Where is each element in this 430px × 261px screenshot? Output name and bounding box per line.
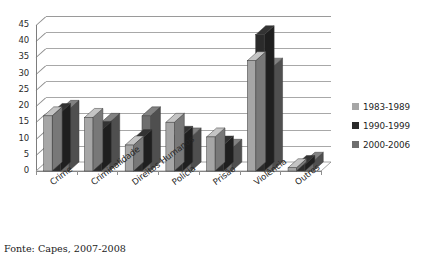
x-axis-tick	[158, 171, 159, 175]
legend-item: 2000-2006	[352, 135, 430, 154]
x-axis-tick	[240, 171, 241, 175]
figure-source-caption: Fonte: Capes, 2007-2008	[4, 243, 126, 254]
legend-swatch-icon	[352, 122, 359, 129]
legend-swatch-icon	[352, 141, 359, 148]
figure-container: 051015202530354045 CrimeCriminalidadeDir…	[0, 0, 430, 261]
x-axis-tick	[36, 171, 37, 175]
legend-item: 1990-1999	[352, 116, 430, 135]
legend-swatch-icon	[352, 103, 359, 110]
bar-chart: 051015202530354045 CrimeCriminalidadeDir…	[0, 0, 345, 215]
legend-item: 1983-1989	[352, 97, 430, 116]
legend-label: 1983-1989	[363, 102, 410, 112]
x-axis-tick	[77, 171, 78, 175]
x-axis-tick	[199, 171, 200, 175]
legend-label: 2000-2006	[363, 140, 410, 150]
legend-label: 1990-1999	[363, 121, 410, 131]
chart-legend: 1983-19891990-19992000-2006	[352, 97, 430, 154]
x-axis-tick	[117, 171, 118, 175]
x-axis-tick	[321, 171, 322, 175]
x-axis-tick	[280, 171, 281, 175]
